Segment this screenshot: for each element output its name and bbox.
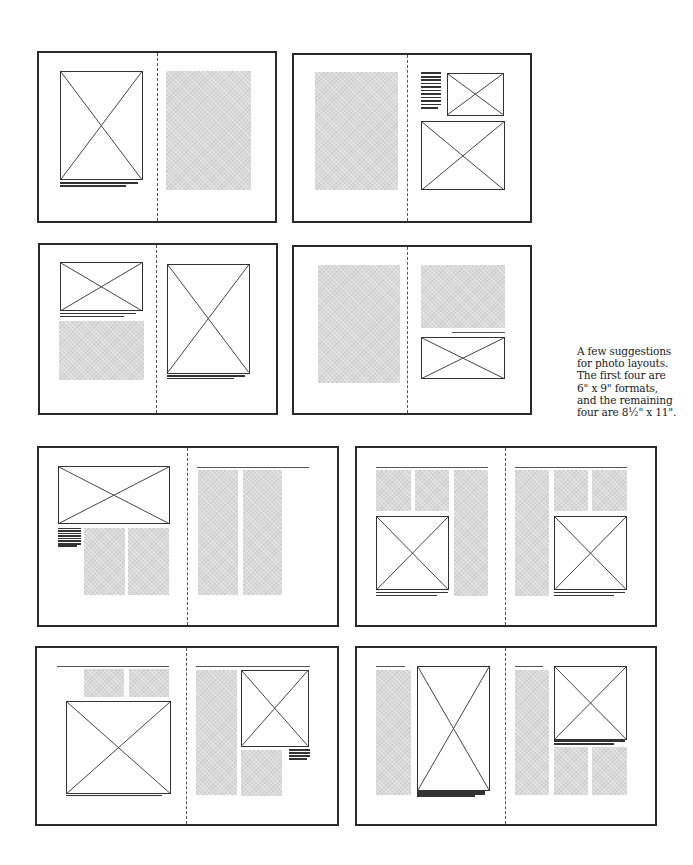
line [376,595,437,596]
text-column [554,747,588,795]
photo-x-icon [422,338,504,378]
gutter-fold-line [505,648,506,824]
spread-6x9-4 [292,245,532,415]
caption-lines [66,795,162,797]
line [554,740,626,741]
headline-rule [515,666,543,667]
photo-x-icon [67,702,170,793]
line [289,758,307,760]
text-column [315,72,398,190]
line [58,545,77,547]
gutter-fold-line [407,55,408,221]
headline-rule [452,332,505,333]
line [58,540,80,542]
line [58,530,80,532]
line [421,83,441,85]
line [421,72,441,74]
headline-rule [197,467,309,468]
line [60,313,136,314]
text-column [241,750,282,796]
text-column [198,470,238,595]
photo-x-icon [555,667,626,739]
photo-x-icon [59,467,169,523]
line [289,749,310,751]
photo-placeholder [60,262,143,312]
line [60,182,138,183]
photo-placeholder [376,516,449,590]
spread-6x9-3 [38,243,278,415]
headline-rule [376,467,488,468]
photo-placeholder [60,71,143,180]
text-column [243,470,282,595]
headline-rule [515,467,627,468]
text-column [421,265,505,328]
text-column [376,470,410,511]
text-column [59,321,144,380]
photo-x-icon [377,517,448,589]
text-lines [421,72,441,109]
gutter-fold-line [156,245,157,413]
line [58,528,80,530]
line [60,185,126,186]
line [554,743,615,744]
line [554,595,615,596]
photo-placeholder [66,701,171,794]
photo-placeholder [554,516,627,590]
line [289,755,310,757]
line [66,795,162,796]
line [376,592,448,593]
line [554,592,626,593]
line [58,535,80,537]
text-lines [58,528,80,547]
spread-8.5x11-4 [355,646,657,826]
line [60,316,124,317]
text-column [415,470,449,511]
caption-lines [376,592,448,596]
photo-x-icon [61,263,142,311]
text-column [128,528,168,595]
text-column [166,71,251,190]
caption-lines [554,592,626,596]
photo-x-icon [61,72,142,179]
line [167,378,233,379]
text-column [515,670,549,795]
headline-rule [57,666,170,667]
photo-placeholder [554,666,627,740]
line [421,79,441,81]
spread-8.5x11-3 [35,646,339,826]
line [421,90,441,92]
text-column [84,528,124,595]
photo-x-icon [168,265,249,372]
text-column [515,470,549,596]
line [421,76,441,78]
gutter-fold-line [407,247,408,413]
line [421,107,438,109]
text-column [592,747,626,795]
line [58,533,80,535]
line [421,93,441,95]
text-column [592,470,626,511]
photo-placeholder [167,264,250,373]
line [421,86,441,88]
line [58,543,80,545]
photo-placeholder [58,466,170,524]
text-column [318,265,401,383]
line [421,97,441,99]
line [421,104,441,106]
photo-x-icon [422,122,504,190]
photo-placeholder [421,337,505,379]
text-lines [289,749,310,760]
spread-6x9-1 [37,51,277,223]
gutter-fold-line [505,448,506,625]
photo-x-icon [242,671,308,746]
photo-placeholder [421,121,505,191]
line [421,100,441,102]
headline-rule [196,666,310,667]
photo-x-icon [448,74,503,114]
line [289,752,310,754]
gutter-fold-line [187,448,188,625]
photo-placeholder [417,666,490,791]
gutter-fold-line [186,648,187,824]
caption-lines [417,791,486,796]
photo-x-icon [418,667,489,790]
